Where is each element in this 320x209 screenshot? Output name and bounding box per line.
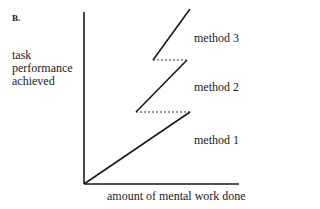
method-2-label: method 2 (194, 80, 239, 95)
method-1-line (84, 112, 190, 184)
x-axis-label: amount of mental work done (107, 189, 246, 204)
method-3-line (153, 9, 190, 60)
method-3-label: method 3 (194, 31, 239, 46)
method-2-line (136, 60, 187, 112)
method-1-label: method 1 (194, 133, 239, 148)
